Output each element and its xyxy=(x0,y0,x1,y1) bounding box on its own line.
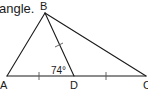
vertex-label-c: C xyxy=(143,79,148,91)
vertex-label-b: B xyxy=(40,0,47,12)
triangle-figure: B A D C 74° xyxy=(0,0,148,91)
angle-label: 74° xyxy=(51,65,66,76)
segment-ab xyxy=(7,13,45,76)
vertex-label-a: A xyxy=(0,79,8,91)
vertex-label-d: D xyxy=(70,79,78,91)
